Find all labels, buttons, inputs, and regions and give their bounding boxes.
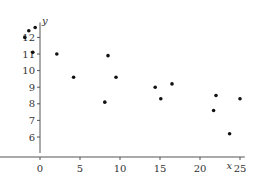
x-tick-label: 20	[194, 163, 207, 174]
y-tick-label: 10	[22, 65, 35, 76]
data-point	[228, 132, 232, 136]
x-tick-label: 15	[154, 163, 167, 174]
data-point	[159, 97, 163, 101]
data-point	[214, 94, 218, 98]
data-point	[103, 100, 107, 104]
x-axis-label: x	[226, 160, 232, 171]
y-axis-label: y	[41, 15, 48, 26]
chart-canvas: 0510152025 6789101112 x y	[0, 0, 257, 183]
data-point	[170, 82, 174, 86]
data-point	[212, 109, 216, 113]
data-point	[55, 52, 59, 56]
data-point	[23, 36, 27, 40]
data-point	[31, 51, 35, 55]
y-tick-label: 8	[29, 98, 35, 109]
x-tick-label: 10	[114, 163, 127, 174]
x-tick-label: 0	[37, 163, 43, 174]
y-axis-ticks: 6789101112	[22, 32, 40, 143]
y-tick-label: 6	[29, 132, 35, 143]
data-point	[238, 97, 242, 101]
x-tick-label: 25	[234, 163, 247, 174]
data-point	[27, 29, 31, 33]
data-point	[33, 26, 37, 30]
data-point	[153, 85, 157, 89]
data-point	[114, 75, 118, 79]
data-point	[72, 75, 76, 79]
axes	[0, 22, 245, 157]
y-tick-label: 9	[29, 82, 35, 93]
x-tick-label: 5	[77, 163, 83, 174]
x-axis-ticks: 0510152025	[37, 157, 247, 174]
data-point	[106, 54, 110, 58]
scatter-chart: 0510152025 6789101112 x y	[0, 0, 257, 183]
data-points	[23, 26, 242, 136]
y-tick-label: 7	[29, 115, 35, 126]
